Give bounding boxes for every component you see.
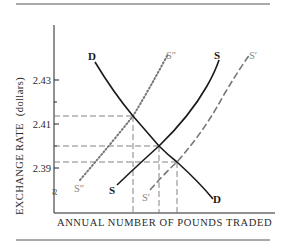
- y-tick-label-2-43: 2.43: [33, 75, 51, 86]
- label-s-top: S: [214, 49, 220, 61]
- supply-curve-s: [117, 60, 219, 185]
- y-tick-label-2-39: 2.39: [33, 163, 51, 174]
- axis-break-icon: ≈: [49, 189, 61, 195]
- label-s-double-prime-bottom: S″: [74, 183, 84, 194]
- y-axis-label-main: EXCHANGE RATE: [14, 123, 25, 215]
- label-d-bottom: D: [213, 193, 221, 205]
- x-axis-label: ANNUAL NUMBER OF POUNDS TRADED: [57, 217, 272, 228]
- supply-curve-s-prime: [150, 54, 250, 190]
- label-d-top: D: [88, 50, 96, 62]
- supply-curve-s-double-prime: [80, 54, 168, 180]
- y-tick-label-2-41: 2.41: [33, 119, 51, 130]
- label-s-prime-top: S′: [249, 50, 257, 61]
- demand-curve-d: [95, 62, 213, 199]
- reference-lines: [54, 116, 177, 213]
- label-s-prime-bottom: S′: [142, 192, 150, 203]
- exchange-rate-chart: 2.43 2.41 2.39 ≈ EXCHANGE RATE (dollars)…: [0, 0, 285, 252]
- y-axis-label: EXCHANGE RATE (dollars): [14, 77, 26, 215]
- label-s-double-prime-top: S″: [166, 50, 176, 61]
- y-axis-label-unit: (dollars): [14, 77, 26, 116]
- label-s-bottom: S: [109, 184, 115, 196]
